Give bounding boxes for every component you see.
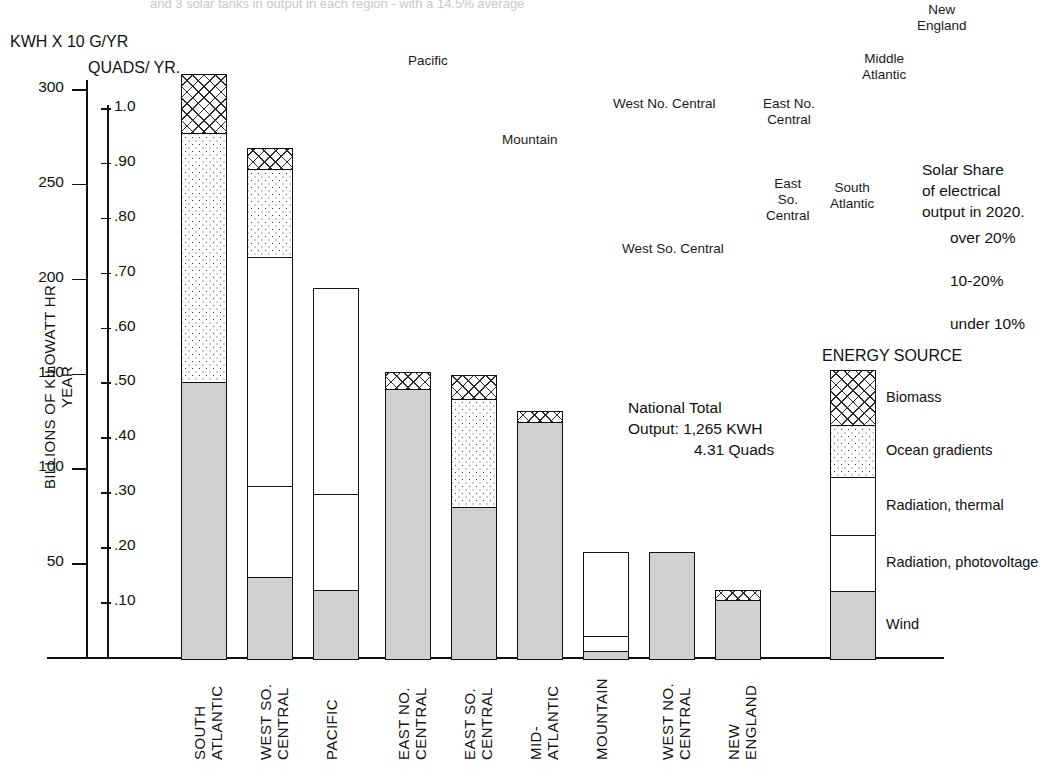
bar[interactable] [715, 60, 761, 658]
legend-swatch-white [830, 477, 876, 537]
bar[interactable] [247, 60, 293, 658]
x-axis-label: PACIFIC [323, 699, 340, 760]
quads-tick [101, 602, 111, 604]
map-region-label: East No. Central [763, 96, 815, 128]
y-tick [72, 468, 87, 470]
share-band-under-10: under 10% [950, 314, 1025, 334]
bar-segment-wind [313, 590, 359, 660]
legend-swatch-bar [830, 370, 876, 658]
legend-swatch-white [830, 535, 876, 593]
x-axis-label: EAST SO. CENTRAL [461, 687, 495, 760]
x-axis-label: SOUTH ATLANTIC [191, 685, 225, 760]
y-tick [72, 563, 87, 565]
map-region-label: West So. Central [622, 241, 724, 257]
y-tick [72, 279, 87, 281]
map-region-label: Pacific [408, 53, 448, 69]
bar-segment-biomass [517, 411, 563, 422]
legend-label: Biomass [886, 389, 942, 405]
bar-segment-wind [247, 576, 293, 659]
x-axis-label: WEST SO. CENTRAL [257, 684, 291, 760]
cut-off-caption: and 3 solar tanks in output in each regi… [150, 0, 524, 11]
y-tick [72, 374, 87, 376]
map-region-label: South Atlantic [830, 180, 874, 212]
quads-tick [101, 382, 111, 384]
y-tick [72, 184, 87, 186]
map-region-label: West No. Central [613, 96, 716, 112]
quads-tick [101, 492, 111, 494]
quads-tick-label: .50 [114, 371, 136, 389]
solar-share-line1: Solar Share [922, 160, 1004, 180]
x-axis-label: MID- ATLANTIC [527, 685, 561, 760]
quads-tick [101, 163, 111, 165]
bar[interactable] [181, 60, 227, 658]
quads-tick [101, 547, 111, 549]
share-band-10-20: 10-20% [950, 271, 1003, 291]
x-axis-label: EAST NO. CENTRAL [395, 687, 429, 760]
quads-tick-label: 1.0 [114, 97, 136, 115]
quads-tick-label: .40 [114, 426, 136, 444]
y-tick-label: 150 [8, 363, 64, 381]
bar-segment-photo [247, 485, 293, 578]
bar-segment-thermal [313, 288, 359, 494]
y-tick-label: 250 [8, 173, 64, 191]
y-tick-label: 50 [8, 552, 64, 570]
bar-segment-biomass [715, 590, 761, 601]
kwh-axis-header: KWH X 10 G/YR [10, 33, 128, 51]
bar-segment-photo [313, 493, 359, 591]
solar-share-line2: of electrical [922, 181, 1000, 201]
bar-segment-ocean [451, 398, 497, 508]
quads-tick-label: .10 [114, 591, 136, 609]
y-axis-line [86, 80, 88, 658]
x-axis-label: NEW ENGLAND [725, 685, 759, 760]
bar-segment-wind [451, 506, 497, 659]
bar-segment-ocean [247, 169, 293, 258]
bar-segment-wind [517, 421, 563, 660]
bar-segment-ocean [181, 133, 227, 383]
quads-tick [101, 437, 111, 439]
map-region-label: Middle Atlantic [862, 51, 906, 83]
bar-segment-biomass [247, 148, 293, 170]
bar[interactable] [313, 60, 359, 658]
map-region-label: East So. Central [766, 176, 810, 224]
x-axis-label: WEST NO. CENTRAL [659, 683, 693, 760]
bar[interactable] [451, 60, 497, 658]
bar-segment-photo [583, 635, 629, 652]
solar-share-line3: output in 2020. [922, 202, 1025, 222]
quads-tick-label: .20 [114, 536, 136, 554]
bar[interactable] [385, 60, 431, 658]
quads-tick-label: .60 [114, 317, 136, 335]
legend-label: Ocean gradients [886, 442, 992, 458]
quads-tick-label: .70 [114, 262, 136, 280]
bar[interactable] [583, 60, 629, 658]
legend-label: Radiation, thermal [886, 497, 1004, 513]
map-region-label: Mountain [502, 132, 558, 148]
quads-tick-label: .30 [114, 481, 136, 499]
quads-axis-header: QUADS/ YR. [88, 58, 180, 77]
bar-segment-wind [715, 599, 761, 659]
x-axis-label: MOUNTAIN [593, 678, 610, 760]
bar-segment-biomass [181, 74, 227, 134]
national-total-line3: 4.31 Quads [694, 440, 774, 460]
bar-segment-thermal [247, 256, 293, 487]
map-region-label: New England [917, 2, 967, 34]
quads-tick-label: .80 [114, 207, 136, 225]
bar-segment-thermal [583, 552, 629, 637]
national-total-line1: National Total [628, 398, 722, 418]
y-tick [72, 89, 87, 91]
bar[interactable] [517, 60, 563, 658]
y-tick-label: 200 [8, 268, 64, 286]
bar[interactable] [649, 60, 695, 658]
quads-tick [101, 108, 111, 110]
share-band-over-20: over 20% [950, 228, 1015, 248]
legend-label: Wind [886, 616, 919, 632]
y-tick-label: 300 [8, 78, 64, 96]
bar-segment-biomass [451, 375, 497, 399]
quads-tick [101, 273, 111, 275]
quads-tick-label: .90 [114, 152, 136, 170]
legend-title: ENERGY SOURCE [822, 347, 962, 365]
bar-segment-wind [385, 389, 431, 660]
y-tick-label: 100 [8, 457, 64, 475]
quads-tick [101, 218, 111, 220]
bar-segment-biomass [385, 372, 431, 391]
legend-swatch-gray [830, 591, 876, 660]
